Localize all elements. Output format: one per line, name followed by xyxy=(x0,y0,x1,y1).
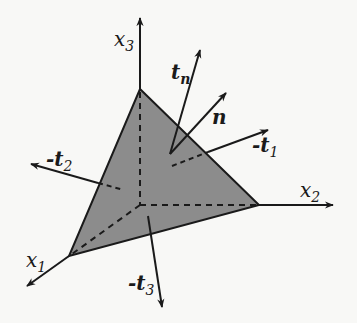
label-x3: x3 xyxy=(114,27,134,54)
label-minus-t3: -t3 xyxy=(128,271,155,298)
label-n: n xyxy=(212,105,227,129)
label-tn: tn xyxy=(171,60,190,87)
label-minus-t1: -t1 xyxy=(252,133,278,160)
label-x1: x1 xyxy=(26,248,46,275)
label-x2: x2 xyxy=(300,178,320,205)
label-minus-t2: -t2 xyxy=(46,147,73,174)
tetrahedron-diagram: x3 x2 x1 tn n -t1 -t2 -t3 xyxy=(0,0,357,323)
inclined-face xyxy=(69,89,259,256)
